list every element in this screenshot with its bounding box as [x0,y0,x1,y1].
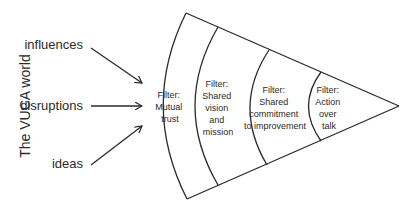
filter-divider-2 [250,50,269,165]
arrow-influences [91,48,142,83]
input-label-ideas: ideas [52,156,84,171]
vuca-filter-diagram: The VUCA world influences disruptions id… [0,0,418,211]
input-label-disruptions: disruptions [20,98,83,113]
input-label-influences: influences [24,37,83,52]
filter-mutual-trust: Filter: Mutual trust [155,90,185,124]
filter-shared-vision: Filter: Shared vision and mission [202,79,234,137]
arrow-ideas [91,126,142,165]
filter-action-over-talk: Filter: Action over talk [315,85,343,131]
filter-shared-commitment: Filter: Shared commitment to improvement [244,85,307,131]
